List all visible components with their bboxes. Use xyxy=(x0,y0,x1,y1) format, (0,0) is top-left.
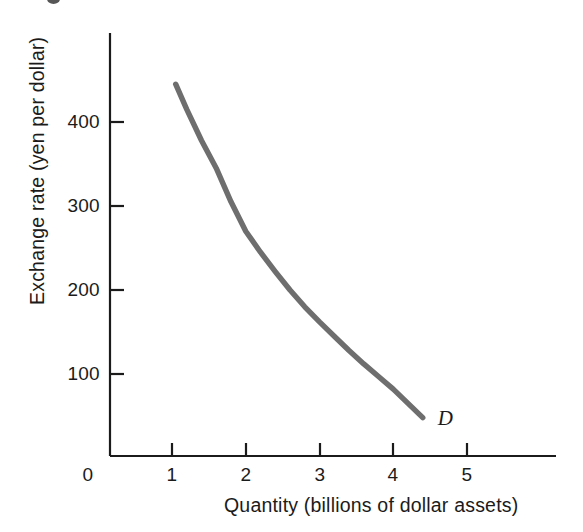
demand-curve-label: D xyxy=(438,406,453,431)
x-tick-label-2: 2 xyxy=(241,464,252,486)
origin-label: 0 xyxy=(83,464,94,486)
x-axis-title: Quantity (billions of dollar assets) xyxy=(224,494,518,517)
x-tick-label-3: 3 xyxy=(315,464,326,486)
chart-plot-area xyxy=(0,0,583,532)
x-tick-label-1: 1 xyxy=(167,464,178,486)
y-axis-title: Exchange rate (yen per dollar) xyxy=(26,37,49,305)
y-tick-label-400: 400 xyxy=(52,111,100,133)
chart-figure: 400 300 200 100 1 2 3 4 5 0 Exchange rat… xyxy=(0,0,583,532)
y-tick-label-300: 300 xyxy=(52,195,100,217)
y-tick-label-100: 100 xyxy=(52,363,100,385)
y-tick-label-200: 200 xyxy=(52,279,100,301)
demand-curve xyxy=(176,84,423,417)
x-tick-label-5: 5 xyxy=(462,464,473,486)
x-tick-label-4: 4 xyxy=(388,464,399,486)
